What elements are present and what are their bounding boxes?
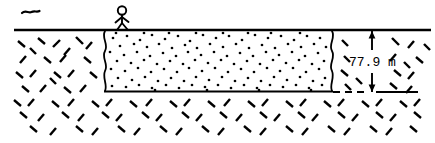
person-arm-right xyxy=(122,17,129,22)
rock-hatch-left xyxy=(16,37,97,93)
stick-figure-person xyxy=(116,6,129,30)
bird-tilde-mark xyxy=(22,11,40,13)
person-head xyxy=(118,6,126,14)
depth-dimension: 77.9 m xyxy=(333,31,418,92)
person-leg-right xyxy=(122,23,128,30)
granular-soil-layer xyxy=(104,31,333,92)
rock-hatch-bottom-row-3 xyxy=(30,126,417,135)
soil-layer-cross-section-figure: 77.9 m xyxy=(0,0,435,143)
cross-section-drawing: 77.9 m xyxy=(0,0,435,143)
depth-arrow-down xyxy=(369,85,376,93)
depth-arrow-up xyxy=(369,31,376,39)
depth-dimension-label: 77.9 m xyxy=(349,55,396,70)
person-arm-left xyxy=(116,17,123,23)
rock-hatch-bottom-row-1 xyxy=(14,99,420,107)
rock-hatch-bottom-row-2 xyxy=(20,112,421,121)
